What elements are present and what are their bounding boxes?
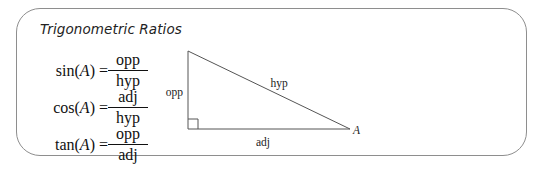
hyp-label: hyp — [270, 77, 288, 90]
triangle-shape — [188, 51, 350, 129]
angle-a-label: A — [352, 124, 361, 136]
right-angle-marker-icon — [188, 119, 198, 129]
right-triangle-diagram: opp hyp adj A — [0, 0, 545, 172]
adj-label: adj — [256, 136, 270, 149]
opp-label: opp — [166, 86, 184, 99]
